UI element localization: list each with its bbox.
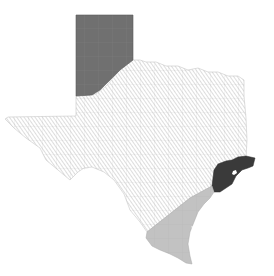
texas-map-svg — [0, 0, 274, 276]
barrier-island — [192, 226, 195, 262]
texas-map — [0, 0, 274, 276]
county-lines-central — [5, 60, 247, 232]
